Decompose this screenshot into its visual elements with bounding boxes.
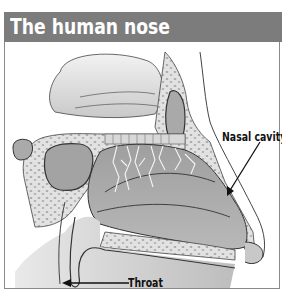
sphenoid-sinus bbox=[45, 144, 93, 191]
label-throat: Throat bbox=[128, 276, 163, 290]
brain-tissue bbox=[50, 54, 164, 117]
nose-cross-section-illustration bbox=[5, 42, 279, 288]
nasal-cavity-arrow bbox=[229, 142, 260, 192]
label-nasal-cavity: Nasal cavity bbox=[222, 130, 282, 144]
page-title: The human nose bbox=[10, 13, 170, 41]
